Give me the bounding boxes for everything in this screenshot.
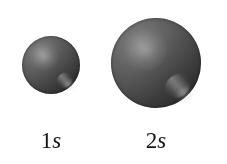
orbital-1s-label-number: 1	[41, 128, 53, 153]
orbital-comparison-figure: 1s 2s	[0, 0, 227, 164]
sphere-1s-glint	[54, 69, 76, 91]
orbital-2s-label: 2s	[111, 129, 201, 152]
sphere-2s-highlight	[124, 29, 167, 70]
sphere-orbital-1s-icon	[22, 36, 80, 94]
sphere-1s-halftone-texture	[22, 36, 80, 94]
sphere-2s-glint	[160, 68, 195, 102]
sphere-2s-halftone-texture	[111, 18, 201, 108]
sphere-1s-shading	[22, 36, 80, 94]
sphere-orbital-2s-icon	[111, 18, 201, 108]
orbital-1s-group	[22, 36, 80, 94]
orbital-1s-label-subshell: s	[52, 128, 61, 153]
orbital-2s-group	[111, 18, 201, 108]
sphere-2s-glint-secondary	[173, 83, 197, 106]
orbital-1s-label: 1s	[22, 129, 80, 152]
orbital-2s-label-subshell: s	[157, 128, 166, 153]
sphere-2s-shading	[111, 18, 201, 108]
orbital-2s-label-number: 2	[146, 128, 158, 153]
sphere-1s-highlight	[30, 43, 58, 70]
sphere-1s-glint-secondary	[62, 78, 77, 93]
